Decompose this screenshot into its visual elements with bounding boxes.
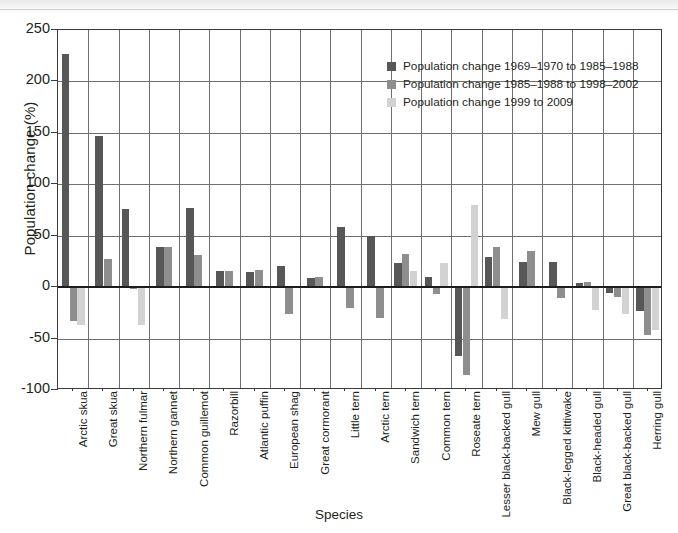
bar	[644, 287, 651, 335]
x-tick-mark	[496, 388, 497, 391]
y-tick-mark	[51, 389, 58, 390]
y-axis-tick-labels: -100-50050100150200250	[0, 29, 50, 389]
bar	[367, 236, 375, 287]
y-tick-label: 0	[0, 277, 50, 293]
x-tick-label: Little tern	[349, 391, 361, 438]
x-tick-mark	[647, 388, 648, 391]
bar	[410, 271, 417, 287]
x-tick-label: Sandwich tern	[409, 391, 421, 464]
x-tick-label: Mew gull	[530, 391, 542, 436]
x-axis-title: Species	[0, 507, 678, 522]
bar	[246, 272, 254, 287]
x-tick-mark	[526, 388, 527, 391]
bar	[122, 209, 129, 287]
bar	[186, 208, 194, 287]
bar	[104, 259, 112, 287]
x-tick-label: Common tern	[440, 391, 452, 461]
x-tick-label: Lesser black-backed gull	[500, 391, 512, 518]
bar	[519, 262, 527, 287]
x-tick-mark	[193, 388, 194, 391]
x-tick-mark	[284, 388, 285, 391]
bar	[614, 287, 621, 297]
legend-item: Population change 1985–1988 to 1998–2002	[387, 76, 639, 92]
x-tick-mark	[223, 388, 224, 391]
x-tick-label: Herring gull	[651, 391, 663, 450]
legend-item: Population change 1969–1970 to 1985–1988	[387, 58, 639, 74]
y-tick-label: -100	[0, 380, 50, 396]
x-tick-label: Great black-backed gull	[621, 391, 633, 512]
x-tick-mark	[435, 388, 436, 391]
zero-baseline	[58, 286, 661, 288]
bar	[138, 287, 145, 325]
bar	[285, 287, 293, 314]
x-tick-label: Black-headed gull	[591, 391, 603, 482]
legend-item: Population change 1999 to 2009	[387, 94, 639, 110]
x-tick-mark	[254, 388, 255, 391]
x-tick-label: Arctic skua	[77, 391, 89, 447]
bar	[463, 287, 470, 374]
bar	[622, 287, 629, 314]
chart-figure: Population change (%) -100-5005010015020…	[0, 0, 678, 533]
bar	[402, 254, 409, 287]
bar	[485, 257, 492, 287]
bar	[527, 251, 535, 287]
y-tick-label: 50	[0, 226, 50, 242]
legend-label: Population change 1969–1970 to 1985–1988	[403, 59, 639, 73]
bar	[156, 247, 164, 287]
bar	[225, 271, 233, 287]
bar	[277, 266, 285, 288]
bar	[557, 287, 565, 298]
gridline-vertical	[149, 30, 150, 388]
gridline-vertical	[209, 30, 210, 388]
bar	[471, 205, 478, 287]
bar	[549, 262, 557, 287]
x-tick-label: Common guillemot	[198, 391, 210, 487]
x-tick-mark	[163, 388, 164, 391]
bar	[652, 287, 659, 330]
gridline-vertical	[88, 30, 89, 388]
bar	[455, 287, 462, 356]
bar	[493, 247, 500, 287]
legend-label: Population change 1985–1988 to 1998–2002	[403, 77, 639, 91]
bar	[440, 263, 447, 287]
x-tick-mark	[344, 388, 345, 391]
gridline-vertical	[330, 30, 331, 388]
x-tick-mark	[314, 388, 315, 391]
bar	[164, 247, 172, 287]
x-tick-label: Razorbill	[228, 391, 240, 436]
bar	[337, 227, 345, 287]
x-axis-tick-labels: Arctic skuaGreat skuaNorthern fulmarNort…	[57, 391, 662, 503]
x-tick-mark	[133, 388, 134, 391]
bar	[216, 271, 224, 287]
legend-label: Population change 1999 to 2009	[403, 95, 573, 109]
bar	[255, 270, 263, 287]
x-tick-mark	[586, 388, 587, 391]
gridline-vertical	[240, 30, 241, 388]
y-tick-label: 200	[0, 71, 50, 87]
bar	[62, 54, 69, 287]
x-tick-mark	[375, 388, 376, 391]
y-tick-label: 150	[0, 123, 50, 139]
x-tick-label: Roseate tern	[470, 391, 482, 457]
bar	[95, 136, 103, 287]
x-tick-mark	[102, 388, 103, 391]
x-tick-label: Black-legged kittiwake	[561, 391, 573, 505]
bar	[376, 287, 384, 318]
legend-swatch-icon	[387, 98, 396, 107]
bar	[346, 287, 354, 308]
bar	[592, 287, 599, 310]
x-tick-mark	[72, 388, 73, 391]
x-tick-mark	[556, 388, 557, 391]
x-tick-label: Great skua	[107, 391, 119, 447]
x-tick-label: European shag	[288, 391, 300, 469]
gridline-vertical	[270, 30, 271, 388]
x-tick-mark	[617, 388, 618, 391]
y-tick-label: 250	[0, 20, 50, 36]
bar	[194, 255, 202, 287]
legend-swatch-icon	[387, 80, 396, 89]
gridline-vertical	[119, 30, 120, 388]
gridline-vertical	[300, 30, 301, 388]
x-tick-label: Atlantic puffin	[258, 391, 270, 460]
x-tick-mark	[465, 388, 466, 391]
legend-swatch-icon	[387, 62, 396, 71]
